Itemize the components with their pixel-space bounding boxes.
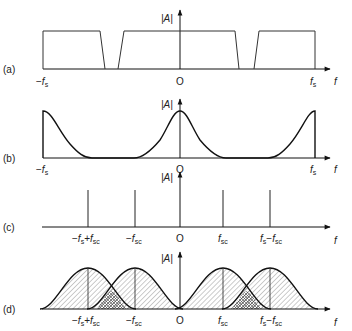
tick-origin: O [176, 233, 184, 244]
tick-fs-minus-fsc: fs−fsc [260, 233, 282, 245]
passband-center [118, 31, 239, 69]
tick-minus-fsc: −fsc [126, 233, 142, 245]
panel-c: (c) |A| −fs+fsc −fsc O fsc fs−fsc f [3, 172, 338, 246]
f-axis-label: f [334, 235, 338, 246]
panel-a: (a) |A| −fs O fs f [3, 10, 338, 88]
panel-label-d: (d) [3, 304, 15, 315]
tick-origin: O [176, 315, 184, 326]
tick-minus-fsc: −fsc [126, 315, 142, 327]
f-axis-label: f [334, 76, 338, 87]
abs-a-label: |A| [161, 99, 173, 110]
panel-label-a: (a) [3, 64, 15, 75]
tick-minus-fs: −fs [36, 164, 49, 176]
spectrum-figure: (a) |A| −fs O fs f (b) |A| −fs O fs f (c… [0, 0, 352, 331]
panel-d: (d) |A| −fs+fsc −fsc O fsc fs−fsc f [3, 252, 338, 328]
abs-a-label: |A| [161, 13, 173, 24]
tick-minus-fs-plus-fsc: −fs+fsc [72, 315, 100, 327]
panel-b: (b) |A| −fs O fs f [3, 99, 338, 176]
tick-minus-fs: −fs [36, 76, 49, 88]
tick-fs: fs [310, 76, 317, 88]
raised-cosine-curve [43, 111, 315, 158]
tick-fsc: fsc [218, 315, 228, 327]
panel-label-b: (b) [3, 153, 15, 164]
f-axis-label: f [334, 317, 338, 328]
panel-label-c: (c) [3, 222, 15, 233]
tick-fs: fs [310, 164, 317, 176]
f-axis-label: f [334, 164, 338, 175]
abs-a-label: |A| [161, 253, 173, 264]
tick-origin: O [176, 76, 184, 87]
passband-left [43, 31, 105, 69]
abs-a-label: |A| [161, 172, 173, 183]
tick-minus-fs-plus-fsc: −fs+fsc [72, 233, 100, 245]
tick-fs-minus-fsc: fs−fsc [260, 315, 282, 327]
passband-right [254, 31, 315, 69]
tick-fsc: fsc [218, 233, 228, 245]
